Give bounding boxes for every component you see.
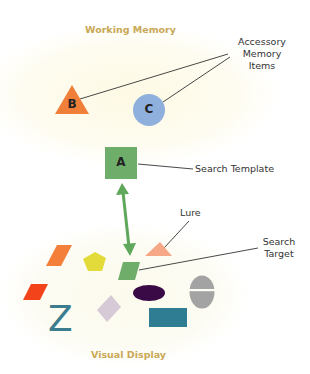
dark-purple-ellipse bbox=[133, 285, 165, 301]
accessory-line-2: Memory bbox=[232, 48, 292, 60]
teal-rectangle bbox=[149, 308, 187, 327]
gray-ellipse-divider bbox=[188, 289, 216, 291]
memory-item-c-letter: C bbox=[141, 102, 157, 116]
accessory-line-1: Accessory bbox=[232, 36, 292, 48]
teal-z-letter: Z bbox=[48, 298, 73, 339]
visual-display-label: Visual Display bbox=[91, 349, 166, 360]
working-memory-label: Working Memory bbox=[85, 24, 176, 35]
search-target-line-2: Target bbox=[260, 248, 298, 260]
accessory-line-3: Items bbox=[232, 60, 292, 72]
accessory-memory-items-label: Accessory Memory Items bbox=[232, 36, 292, 72]
search-template-label: Search Template bbox=[195, 163, 274, 175]
template-a-letter: A bbox=[113, 155, 129, 169]
arrow-head-up bbox=[116, 183, 129, 195]
search-target-line-1: Search bbox=[260, 236, 298, 248]
lure-label: Lure bbox=[180, 207, 201, 219]
search-target-label: Search Target bbox=[260, 236, 298, 260]
gray-split-ellipse bbox=[190, 276, 215, 309]
attention-diagram: Z Working Memory Visual Display B C A Ac… bbox=[0, 0, 310, 374]
memory-item-b-letter: B bbox=[64, 97, 80, 111]
